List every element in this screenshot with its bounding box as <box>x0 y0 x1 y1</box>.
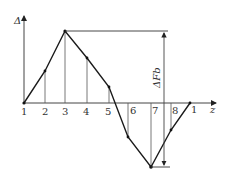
point-label-7: 7 <box>152 105 158 116</box>
point-label-2: 2 <box>42 106 48 117</box>
point-label-6: 6 <box>130 105 136 116</box>
y-axis-label: Δ <box>13 15 21 26</box>
diagram-canvas: Δ z ΔFb 1 2 3 4 5 6 7 8 1 <box>0 0 232 185</box>
point-label-3: 3 <box>62 106 68 117</box>
curve-points <box>22 29 191 168</box>
point-label-4: 4 <box>83 106 89 117</box>
deformation-curve <box>24 31 190 167</box>
point-label-1: 1 <box>21 106 27 117</box>
point-label-8: 8 <box>172 105 178 116</box>
dimension-label: ΔFb <box>151 67 162 89</box>
point-label-1-end: 1 <box>191 104 197 115</box>
ordinate-lines <box>45 31 171 167</box>
point-label-5: 5 <box>105 106 111 117</box>
deformation-diagram: Δ z ΔFb 1 2 3 4 5 6 7 8 1 <box>0 0 232 185</box>
x-axis-label: z <box>209 104 216 115</box>
